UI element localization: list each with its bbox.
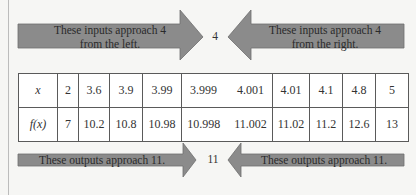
top-right-arrow-label: These inputs approach 4 from the right. (255, 23, 395, 51)
x-cell: 3.9 (110, 74, 143, 108)
f-cell: 10.98 (143, 108, 182, 142)
top-right-line2: from the right. (255, 37, 395, 51)
bottom-right-arrow-label: These outputs approach 11. (244, 153, 404, 167)
x-cell: 4.1 (310, 74, 343, 108)
x-cell: 3.99 (143, 74, 182, 108)
f-cell: 11.002 (234, 117, 267, 131)
x-cell-pair: 3.999 4.001 (182, 74, 273, 108)
f-cell: 11.2 (310, 108, 343, 142)
f-cell: 13 (376, 108, 409, 142)
f-cell: 10.998 (187, 117, 220, 131)
f-header: f(x) (19, 108, 58, 142)
x-cell: 5 (376, 74, 409, 108)
x-cell: 4.8 (343, 74, 376, 108)
values-table: x 2 3.6 3.9 3.99 3.999 4.001 4.01 4.1 4.… (18, 73, 409, 142)
top-left-line2: from the left. (40, 37, 180, 51)
top-left-arrow-label: These inputs approach 4 from the left. (40, 23, 180, 51)
x-header: x (19, 74, 58, 108)
f-cell-pair: 10.998 11.002 (182, 108, 273, 142)
top-left-line1: These inputs approach 4 (40, 23, 180, 37)
x-cell: 2 (58, 74, 79, 108)
f-cell: 12.6 (343, 108, 376, 142)
x-cell: 4.01 (273, 74, 310, 108)
top-right-line1: These inputs approach 4 (255, 23, 395, 37)
f-row: f(x) 7 10.2 10.8 10.98 10.998 11.002 11.… (19, 108, 409, 142)
x-cell: 3.6 (79, 74, 110, 108)
f-cell: 10.2 (79, 108, 110, 142)
f-cell: 11.02 (273, 108, 310, 142)
x-row: x 2 3.6 3.9 3.99 3.999 4.001 4.01 4.1 4.… (19, 74, 409, 108)
top-center-value: 4 (205, 30, 225, 42)
bottom-center-value: 11 (200, 153, 226, 165)
x-cell: 3.999 (190, 83, 217, 97)
f-cell: 10.8 (110, 108, 143, 142)
x-cell: 4.001 (237, 83, 264, 97)
bottom-left-arrow-label: These outputs approach 11. (22, 153, 182, 167)
f-cell: 7 (58, 108, 79, 142)
